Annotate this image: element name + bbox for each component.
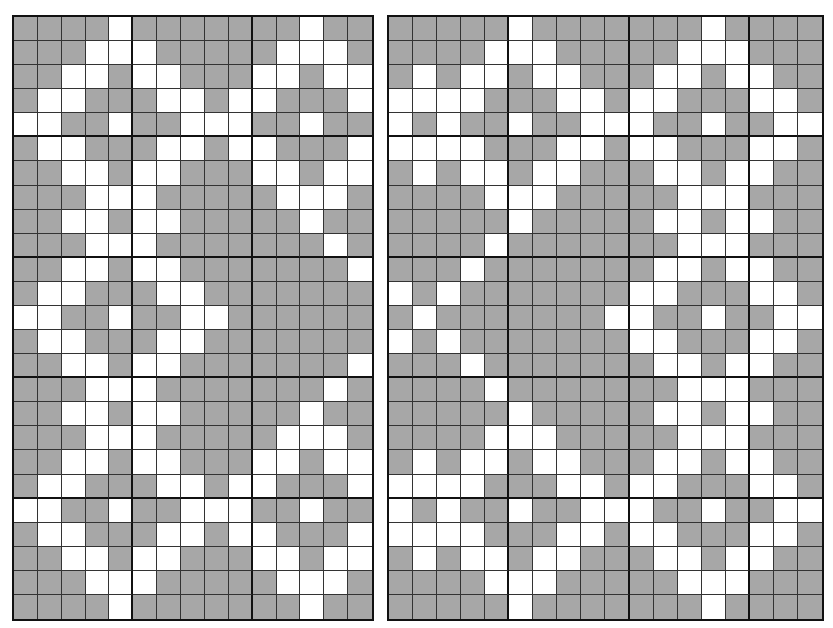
empty-cell: [533, 65, 557, 89]
empty-cell: [109, 595, 133, 619]
filled-cell: [300, 234, 324, 258]
filled-cell: [774, 547, 798, 571]
empty-cell: [157, 65, 181, 89]
filled-cell: [205, 426, 229, 450]
filled-cell: [654, 499, 678, 523]
empty-cell: [62, 258, 86, 282]
filled-cell: [605, 210, 629, 234]
empty-cell: [726, 258, 750, 282]
filled-cell: [605, 282, 629, 306]
empty-cell: [533, 41, 557, 65]
empty-cell: [702, 595, 726, 619]
empty-cell: [750, 65, 774, 89]
filled-cell: [437, 378, 461, 402]
empty-cell: [654, 402, 678, 426]
filled-cell: [581, 186, 605, 210]
empty-cell: [509, 113, 533, 137]
filled-cell: [774, 17, 798, 41]
empty-cell: [277, 186, 301, 210]
filled-cell: [702, 402, 726, 426]
filled-cell: [750, 17, 774, 41]
filled-cell: [389, 41, 413, 65]
filled-cell: [348, 113, 372, 137]
filled-cell: [389, 161, 413, 185]
filled-cell: [14, 354, 38, 378]
filled-cell: [253, 595, 277, 619]
filled-cell: [798, 41, 822, 65]
empty-cell: [157, 354, 181, 378]
filled-cell: [62, 113, 86, 137]
empty-cell: [62, 282, 86, 306]
filled-cell: [62, 306, 86, 330]
filled-cell: [485, 354, 509, 378]
filled-cell: [485, 258, 509, 282]
empty-cell: [774, 306, 798, 330]
empty-cell: [300, 426, 324, 450]
filled-cell: [300, 258, 324, 282]
filled-cell: [461, 306, 485, 330]
filled-cell: [461, 571, 485, 595]
filled-cell: [348, 330, 372, 354]
filled-cell: [62, 426, 86, 450]
empty-cell: [774, 499, 798, 523]
empty-cell: [229, 89, 253, 113]
filled-cell: [205, 89, 229, 113]
filled-cell: [654, 113, 678, 137]
filled-cell: [798, 89, 822, 113]
filled-cell: [654, 426, 678, 450]
filled-cell: [678, 595, 702, 619]
filled-cell: [324, 402, 348, 426]
empty-cell: [461, 547, 485, 571]
filled-cell: [630, 234, 654, 258]
empty-cell: [461, 258, 485, 282]
filled-cell: [509, 523, 533, 547]
filled-cell: [324, 499, 348, 523]
empty-cell: [774, 89, 798, 113]
filled-cell: [229, 354, 253, 378]
filled-cell: [678, 113, 702, 137]
filled-cell: [277, 499, 301, 523]
filled-cell: [389, 354, 413, 378]
right-pattern-grid: [387, 15, 824, 621]
filled-cell: [798, 426, 822, 450]
filled-cell: [557, 426, 581, 450]
empty-cell: [62, 354, 86, 378]
empty-cell: [133, 186, 157, 210]
empty-cell: [133, 41, 157, 65]
empty-cell: [533, 571, 557, 595]
empty-cell: [654, 450, 678, 474]
filled-cell: [702, 89, 726, 113]
filled-cell: [133, 523, 157, 547]
filled-cell: [38, 378, 62, 402]
empty-cell: [702, 186, 726, 210]
filled-cell: [461, 17, 485, 41]
empty-cell: [702, 426, 726, 450]
filled-cell: [798, 330, 822, 354]
empty-cell: [413, 523, 437, 547]
filled-cell: [630, 354, 654, 378]
empty-cell: [38, 282, 62, 306]
filled-cell: [413, 210, 437, 234]
filled-cell: [133, 113, 157, 137]
filled-cell: [348, 499, 372, 523]
filled-cell: [533, 234, 557, 258]
filled-cell: [509, 354, 533, 378]
filled-cell: [324, 17, 348, 41]
empty-cell: [509, 186, 533, 210]
filled-cell: [348, 306, 372, 330]
filled-cell: [348, 426, 372, 450]
filled-cell: [14, 547, 38, 571]
filled-cell: [630, 450, 654, 474]
filled-cell: [157, 306, 181, 330]
filled-cell: [485, 17, 509, 41]
filled-cell: [38, 161, 62, 185]
filled-cell: [181, 378, 205, 402]
empty-cell: [557, 161, 581, 185]
empty-cell: [133, 571, 157, 595]
filled-cell: [485, 89, 509, 113]
empty-cell: [133, 258, 157, 282]
filled-cell: [109, 137, 133, 161]
empty-cell: [157, 210, 181, 234]
filled-cell: [86, 306, 110, 330]
empty-cell: [533, 450, 557, 474]
